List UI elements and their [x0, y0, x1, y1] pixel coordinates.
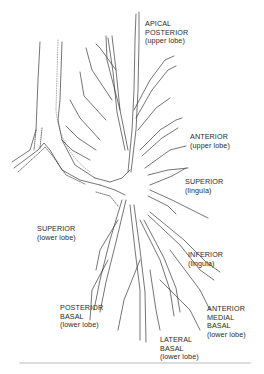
label-line: (upper lobe) — [145, 37, 188, 46]
main-bronchus — [95, 170, 130, 206]
label-line: (lower lobe) — [60, 321, 103, 330]
label-anterior-medial-basal: ANTERIOR MEDIAL BASAL (lower lobe) — [207, 305, 246, 339]
label-line: (lower lobe) — [160, 353, 199, 362]
label-posterior-basal: POSTERIOR BASAL (lower lobe) — [60, 304, 103, 330]
label-superior-lower-lobe: SUPERIOR (lower lobe) — [37, 225, 76, 242]
label-line: (lower lobe) — [37, 234, 76, 243]
label-anterior-upper-lobe: ANTERIOR (upper lobe) — [190, 133, 230, 150]
label-line: (upper lobe) — [190, 142, 230, 151]
label-line: (lingula) — [188, 260, 223, 269]
label-lateral-basal: LATERAL BASAL (lower lobe) — [160, 336, 199, 362]
label-superior-lingula: SUPERIOR (lingula) — [185, 178, 223, 195]
label-line: (lingula) — [185, 187, 223, 196]
label-inferior-lingula: INFERIOR (lingula) — [188, 251, 223, 268]
label-line: (lower lobe) — [207, 331, 246, 340]
label-apical-posterior: APICAL POSTERIOR (upper lobe) — [145, 20, 188, 46]
trachea — [12, 40, 100, 185]
lower-lobe-branches — [90, 200, 220, 342]
